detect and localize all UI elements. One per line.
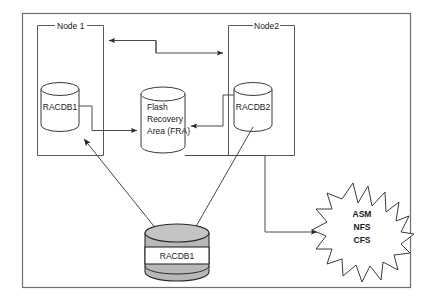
racdb1-node1-cylinder: RACDB1 <box>41 83 79 132</box>
racdb2-node2-cylinder: RACDB2 <box>234 83 272 132</box>
diagram-canvas: Node 1 Node2 RACDB1 Flash Recovery Area … <box>0 0 432 307</box>
racdb2-node2-label: RACDB2 <box>236 102 271 112</box>
rac-architecture-diagram: Node 1 Node2 RACDB1 Flash Recovery Area … <box>0 0 432 307</box>
racdb1-node1-label: RACDB1 <box>43 102 78 112</box>
racdb1-shared-label: RACDB1 <box>160 251 195 261</box>
storage-option-cfs: CFS <box>354 235 371 245</box>
node2-label: Node2 <box>254 21 279 31</box>
storage-option-nfs: NFS <box>354 222 371 232</box>
fra-label-line1: Flash <box>147 102 168 112</box>
fra-top <box>141 87 185 101</box>
node1-label: Node 1 <box>57 21 85 31</box>
flash-recovery-area-cylinder: Flash Recovery Area (FRA) <box>141 87 190 153</box>
racdb1-shared-cylinder: RACDB1 <box>145 224 209 281</box>
fra-label-line3: Area (FRA) <box>147 126 190 136</box>
racdb2-node2-top <box>234 83 272 96</box>
storage-option-asm: ASM <box>353 209 372 219</box>
racdb1-node1-top <box>41 83 79 96</box>
racdb1-shared-top <box>145 224 209 242</box>
fra-label-line2: Recovery <box>147 114 184 124</box>
